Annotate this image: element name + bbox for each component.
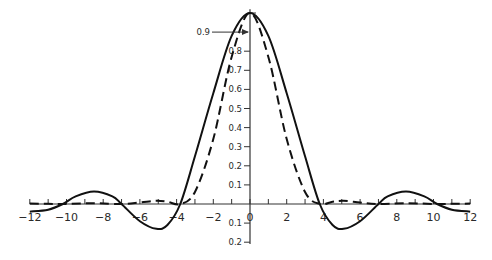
chart-plot: −12−10−8−6−4−20246810120.10.20.30.40.50.… (0, 0, 492, 260)
svg-text:0.5: 0.5 (228, 104, 242, 114)
svg-text:0.1: 0.1 (228, 218, 242, 228)
svg-text:0: 0 (247, 211, 254, 224)
svg-text:−10: −10 (55, 211, 78, 224)
svg-text:0.2: 0.2 (228, 161, 242, 171)
svg-text:0.8: 0.8 (228, 46, 242, 56)
svg-text:0.1: 0.1 (228, 180, 242, 190)
axes (30, 9, 470, 244)
svg-text:0.6: 0.6 (228, 84, 242, 94)
svg-text:2: 2 (283, 211, 290, 224)
svg-text:8: 8 (393, 211, 400, 224)
svg-text:0.7: 0.7 (228, 65, 242, 75)
svg-text:0.3: 0.3 (228, 142, 242, 152)
svg-text:−12: −12 (18, 211, 41, 224)
svg-text:10: 10 (427, 211, 441, 224)
svg-text:−8: −8 (95, 211, 111, 224)
svg-text:0.9: 0.9 (196, 27, 210, 37)
svg-text:0.4: 0.4 (228, 123, 242, 133)
svg-text:−2: −2 (205, 211, 221, 224)
svg-text:12: 12 (463, 211, 477, 224)
svg-text:0.2: 0.2 (228, 237, 242, 247)
